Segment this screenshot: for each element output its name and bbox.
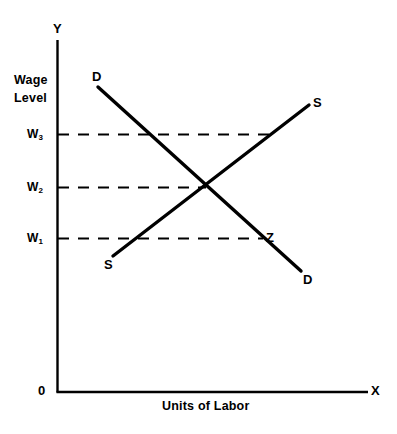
point-z-label: Z <box>266 231 274 244</box>
supply-curve-label-bottom: S <box>104 258 113 271</box>
supply-curve-label-top: S <box>313 96 322 109</box>
x-axis-caption: Units of Labor <box>162 397 250 415</box>
y-axis-caption-line-1: Wage <box>14 71 48 89</box>
wage-tick-label-w2: W2 <box>27 181 43 193</box>
diagram-canvas <box>0 0 397 434</box>
wage-tick-label-w3: W3 <box>27 128 43 140</box>
origin-label: 0 <box>38 384 45 397</box>
wage-tick-w1-base: W <box>27 231 39 245</box>
wage-tick-w3-subscript: 3 <box>39 133 44 142</box>
y-axis-caption-line-2: Level <box>14 89 48 107</box>
demand-curve-label-bottom: D <box>303 273 313 286</box>
demand-curve-label-top: D <box>92 70 102 83</box>
wage-tick-w2-subscript: 2 <box>39 186 44 195</box>
labor-market-diagram: Y X 0 Wage Level W3 W2 W1 D D S S Z Unit… <box>0 0 397 434</box>
wage-tick-label-w1: W1 <box>27 232 43 244</box>
wage-tick-w2-base: W <box>27 180 39 194</box>
y-axis-caption: Wage Level <box>14 71 48 107</box>
y-axis-letter: Y <box>53 22 62 35</box>
wage-tick-w1-subscript: 1 <box>39 237 44 246</box>
wage-tick-w3-base: W <box>27 127 39 141</box>
x-axis-letter: X <box>371 384 380 397</box>
